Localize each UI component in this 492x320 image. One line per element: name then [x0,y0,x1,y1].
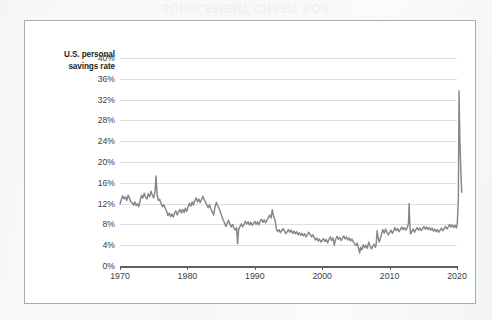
y-axis-tick-label: 20% [98,157,115,167]
x-axis-tick-mark [120,266,121,270]
savings-rate-line [120,91,462,253]
x-axis-tick-label: 2020 [447,271,467,281]
chart-figure-frame: U.S. personal savings rate 0%4%8%12%16%2… [24,20,476,304]
y-axis-tick-label: 8% [103,219,115,229]
y-axis-tick-label: 24% [98,136,115,146]
x-axis-tick-mark [187,266,188,270]
x-axis-tick-mark [255,266,256,270]
plot-area: 0%4%8%12%16%20%24%28%32%36%40% 197019801… [120,58,457,266]
x-axis-tick-mark [457,266,458,270]
series-chart-svg [120,58,457,266]
y-axis-tick-label: 16% [98,178,115,188]
y-axis-tick-label: 28% [98,115,115,125]
x-axis-tick-mark [322,266,323,270]
y-axis-tick-label: 0% [103,261,115,271]
x-axis-tick-label: 1980 [178,271,198,281]
x-axis-tick-label: 2010 [380,271,400,281]
x-axis-baseline [120,266,457,268]
y-axis-tick-label: 4% [103,240,115,250]
y-axis-tick-label: 40% [98,53,115,63]
x-axis-tick-label: 2000 [312,271,332,281]
y-axis-tick-label: 12% [98,199,115,209]
bleed-through-watermark-text: SUPPLEMENT CHART BOX [0,1,492,15]
y-axis-tick-label: 32% [98,95,115,105]
x-axis-tick-mark [390,266,391,270]
x-axis-tick-label: 1990 [245,271,265,281]
page-background: SUPPLEMENT CHART BOX U.S. personal savin… [0,0,492,320]
y-axis-tick-label: 36% [98,74,115,84]
x-axis-tick-label: 1970 [110,271,130,281]
